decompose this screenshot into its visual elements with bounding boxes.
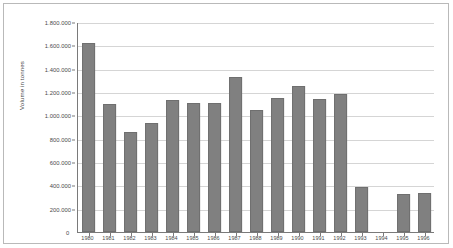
y-axis-tick-mark	[72, 163, 75, 164]
bar	[187, 103, 201, 232]
bar	[103, 104, 117, 232]
y-axis-tick-label: 200.000	[50, 207, 71, 213]
bar	[82, 43, 96, 232]
y-axis-tick-mark	[72, 46, 75, 47]
x-axis-tick-label: 1981	[102, 235, 114, 241]
y-axis-zero-label: 0	[66, 230, 69, 236]
x-axis-tick-label: 1990	[291, 235, 303, 241]
x-axis-tick-label: 1980	[81, 235, 93, 241]
bar-slot	[183, 23, 204, 232]
y-axis-tick-label: 800.000	[50, 137, 71, 143]
bar-slot	[162, 23, 183, 232]
bar-slot	[225, 23, 246, 232]
chart-figure-frame: Volume in tonnes 200.000400.000600.00080…	[3, 3, 449, 244]
bar	[397, 194, 411, 233]
x-axis-tick-label: 1994	[375, 235, 387, 241]
x-axis-tick-label: 1992	[333, 235, 345, 241]
bar-slot	[330, 23, 351, 232]
y-axis-tick-labels: 200.000400.000600.000800.0001.000.0001.2…	[4, 23, 75, 233]
bar	[166, 100, 180, 232]
x-axis-tick-labels: 1980198119821983198419851986198719881989…	[77, 235, 434, 247]
y-axis-tick-label: 1.800.000	[45, 20, 71, 26]
bar	[208, 103, 222, 233]
y-axis-tick-mark	[72, 116, 75, 117]
x-axis-tick-label: 1996	[417, 235, 429, 241]
y-axis-tick-mark	[72, 93, 75, 94]
bar	[418, 193, 432, 232]
bar-slot	[372, 23, 393, 232]
x-axis-tick-label: 1995	[396, 235, 408, 241]
x-axis-tick-label: 1993	[354, 235, 366, 241]
bar	[334, 94, 348, 232]
bar-slot	[414, 23, 435, 232]
y-axis-tick-label: 1.400.000	[45, 67, 71, 73]
chart-screenshot: Volume in tonnes 200.000400.000600.00080…	[0, 0, 453, 248]
y-axis-tick-label: 600.000	[50, 160, 71, 166]
bar-slot	[99, 23, 120, 232]
bar-slot	[141, 23, 162, 232]
y-axis-tick-mark	[72, 209, 75, 210]
bar	[292, 86, 306, 232]
y-axis-tick-mark	[72, 139, 75, 140]
y-axis-tick-mark	[72, 186, 75, 187]
bar-slot	[288, 23, 309, 232]
plot-area	[77, 23, 434, 233]
y-axis-tick-label: 1.600.000	[45, 43, 71, 49]
x-axis-tick-label: 1985	[186, 235, 198, 241]
y-axis-tick-label: 1.200.000	[45, 90, 71, 96]
bar	[313, 99, 327, 232]
x-axis-tick-label: 1983	[144, 235, 156, 241]
bar-slot	[393, 23, 414, 232]
bar	[229, 77, 243, 232]
y-axis-tick-label: 400.000	[50, 183, 71, 189]
bar	[145, 123, 159, 232]
bar-slot	[246, 23, 267, 232]
bar	[250, 110, 264, 232]
bar	[355, 187, 369, 232]
bar-slot	[351, 23, 372, 232]
y-axis-tick-label: 1.000.000	[45, 113, 71, 119]
x-axis-tick-label: 1984	[165, 235, 177, 241]
bar	[271, 98, 285, 232]
bar-series	[78, 23, 434, 232]
y-axis-tick-mark	[72, 23, 75, 24]
bar-slot	[78, 23, 99, 232]
bar	[124, 132, 138, 232]
bar-slot	[267, 23, 288, 232]
bar-slot	[309, 23, 330, 232]
x-axis-tick-label: 1986	[207, 235, 219, 241]
bar-slot	[120, 23, 141, 232]
x-axis-tick-label: 1982	[123, 235, 135, 241]
y-axis-tick-mark	[72, 69, 75, 70]
x-axis-tick-label: 1991	[312, 235, 324, 241]
x-axis-tick-label: 1988	[249, 235, 261, 241]
bar-slot	[204, 23, 225, 232]
x-axis-tick-label: 1989	[270, 235, 282, 241]
x-axis-tick-label: 1987	[228, 235, 240, 241]
